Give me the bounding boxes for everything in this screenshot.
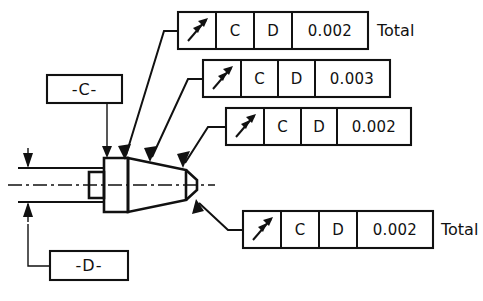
datum-d-group[interactable]: -D- — [28, 224, 128, 280]
part-geometry — [8, 158, 215, 212]
fcf-1-datum-secondary: D — [267, 22, 279, 40]
datum-c-arrowhead — [102, 146, 112, 158]
fcf-4-tolerance: 0.002 — [373, 221, 417, 239]
datum-d-leader — [28, 224, 50, 266]
datum-d-label: -D- — [76, 256, 103, 275]
fcf-3-datum-primary: C — [277, 118, 287, 136]
fcf-1-tolerance: 0.002 — [308, 22, 352, 40]
drawing-canvas: -C- -D- C D 0.0 — [0, 0, 483, 301]
fcf-4-leader — [199, 203, 243, 230]
fcf-2-frame[interactable]: C D 0.003 — [203, 60, 390, 97]
fcf-4-frame[interactable]: C D 0.002 Total — [243, 211, 478, 248]
fcf-3-datum-secondary: D — [313, 118, 325, 136]
fcf-1-leader — [126, 31, 178, 155]
datum-c-label: -C- — [72, 80, 98, 99]
datum-c-group[interactable]: -C- — [47, 75, 122, 158]
fcf-2-datum-secondary: D — [291, 70, 303, 88]
fcf-3-frame[interactable]: C D 0.002 — [226, 108, 411, 145]
fcf-1-frame[interactable]: C D 0.002 Total — [178, 12, 414, 49]
fcf-3-tolerance: 0.002 — [352, 118, 396, 136]
fcf-1-suffix: Total — [376, 21, 414, 40]
fcf-1-datum-primary: C — [230, 22, 240, 40]
fcf-4-datum-secondary: D — [332, 221, 344, 239]
fcf-4-suffix: Total — [440, 220, 478, 239]
fcf-2-datum-primary: C — [254, 70, 264, 88]
upper-dim-arrowhead — [23, 153, 33, 168]
fcf-3-leader — [185, 127, 226, 163]
fcf-4-datum-primary: C — [295, 221, 305, 239]
lower-dim-arrowhead — [23, 202, 33, 217]
fcf-2-tolerance: 0.003 — [330, 70, 374, 88]
fcf-2-arrowhead — [144, 146, 157, 162]
